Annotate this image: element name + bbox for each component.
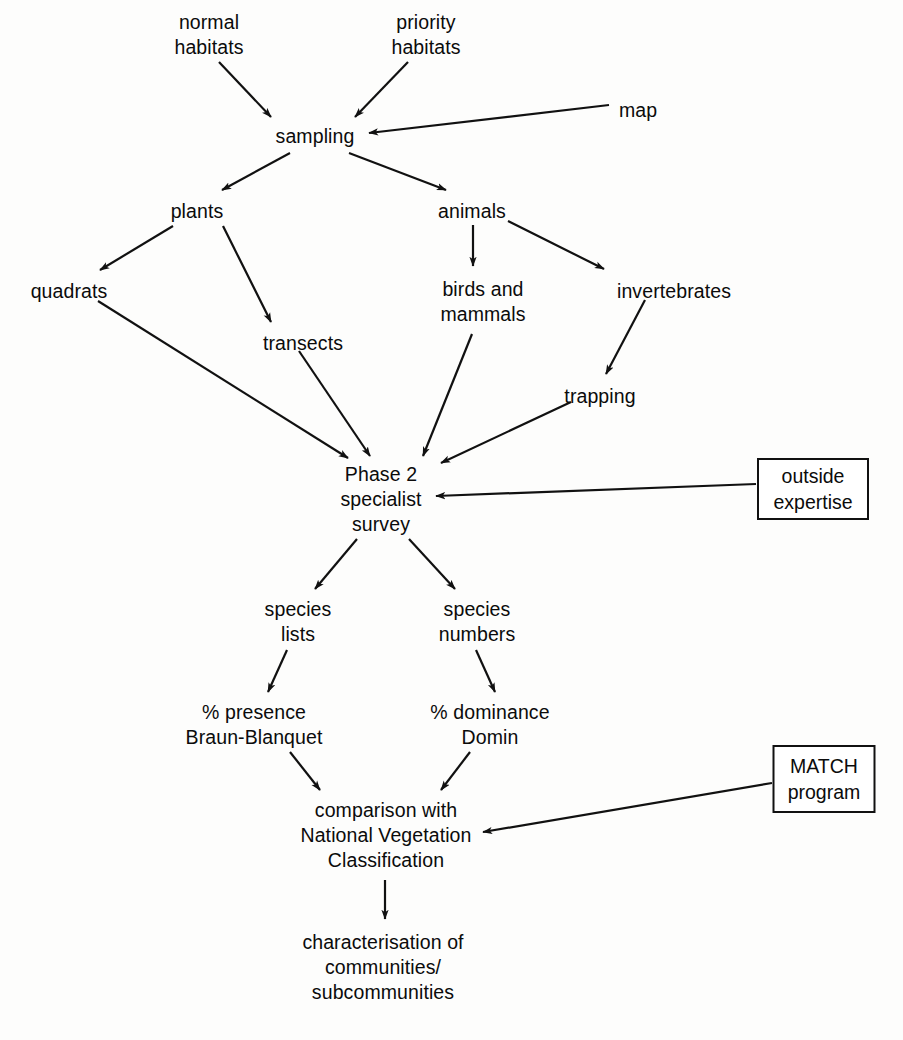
- edge-priority-habitats-to-sampling: [355, 62, 408, 117]
- node-transects[interactable]: transects: [263, 331, 343, 355]
- node-sampling[interactable]: sampling: [276, 124, 355, 148]
- node-plants[interactable]: plants: [171, 199, 224, 223]
- node-outside-expertise-box[interactable]: outside expertise: [757, 458, 869, 520]
- node-species-lists[interactable]: species lists: [265, 597, 332, 647]
- node-species-numbers[interactable]: species numbers: [439, 597, 516, 647]
- edge-phase2-to-species-numbers: [409, 539, 455, 589]
- node-normal-habitats[interactable]: normal habitats: [174, 10, 243, 60]
- node-characterisation-of-communities[interactable]: characterisation of communities/ subcomm…: [302, 930, 463, 1005]
- edge-plants-to-quadrats: [100, 226, 173, 270]
- node-birds-and-mammals[interactable]: birds and mammals: [440, 277, 525, 327]
- node-priority-habitats[interactable]: priority habitats: [391, 10, 460, 60]
- edge-trapping-to-phase2: [441, 402, 571, 463]
- flowchart-edges: [0, 0, 903, 1040]
- node-phase-2-specialist-survey[interactable]: Phase 2 specialist survey: [340, 462, 421, 537]
- node-map[interactable]: map: [619, 98, 657, 122]
- edge-invertebrates-to-trapping: [606, 300, 645, 374]
- edge-transects-to-phase2: [299, 351, 370, 456]
- edge-percent-presence-to-comparison: [290, 752, 320, 790]
- node-invertebrates[interactable]: invertebrates: [617, 279, 731, 303]
- node-quadrats[interactable]: quadrats: [31, 279, 108, 303]
- edge-plants-to-transects: [223, 226, 271, 322]
- edge-sampling-to-animals: [349, 153, 446, 190]
- edge-match-program-to-comparison: [483, 783, 772, 832]
- node-trapping[interactable]: trapping: [564, 384, 635, 408]
- edge-sampling-to-plants: [222, 153, 290, 190]
- edge-birds-mammals-to-phase2: [423, 334, 472, 456]
- edge-quadrats-to-phase2: [98, 301, 348, 458]
- flowchart-canvas: normal habitats priority habitats map sa…: [0, 0, 903, 1040]
- edge-outside-expertise-to-phase2: [436, 484, 756, 496]
- node-percent-dominance-domin[interactable]: % dominance Domin: [430, 700, 549, 750]
- edge-species-lists-to-percent-presence: [268, 650, 287, 692]
- edge-percent-dominance-to-comparison: [441, 752, 470, 790]
- edge-species-numbers-to-percent-dominance: [476, 650, 495, 692]
- edge-map-to-sampling: [369, 105, 609, 133]
- node-match-program-box[interactable]: MATCH program: [773, 745, 876, 813]
- node-animals[interactable]: animals: [438, 199, 506, 223]
- node-comparison-with-national-vegetation-classification[interactable]: comparison with National Vegetation Clas…: [300, 798, 471, 873]
- edge-phase2-to-species-lists: [315, 539, 357, 589]
- edge-animals-to-invertebrates: [508, 221, 604, 269]
- edge-normal-habitats-to-sampling: [219, 62, 271, 117]
- node-percent-presence-braun-blanquet[interactable]: % presence Braun-Blanquet: [186, 700, 323, 750]
